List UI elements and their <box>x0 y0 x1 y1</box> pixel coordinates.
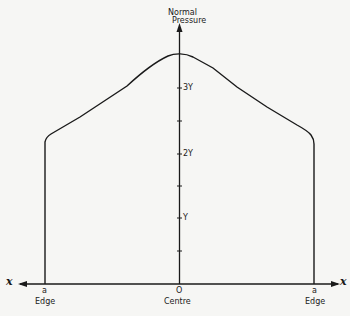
y-tick-label-2y: 2Y <box>183 149 193 158</box>
centre-label: Centre <box>164 297 191 306</box>
origin-label: O <box>176 286 182 295</box>
x-axis-right-arrow-icon <box>331 281 340 287</box>
pressure-diagram <box>0 0 350 316</box>
y-tick-label-3y: 3Y <box>183 83 193 92</box>
y-axis-title-line2: Pressure <box>172 17 206 25</box>
right-edge-letter: a <box>312 286 317 295</box>
y-axis-title: Normal Pressure <box>168 9 206 25</box>
left-edge-label: Edge <box>35 297 55 306</box>
right-edge-label: Edge <box>305 297 325 306</box>
y-tick-label-y: Y <box>183 213 188 222</box>
left-edge-letter: a <box>42 286 47 295</box>
x-axis-symbol-right: x <box>340 275 347 288</box>
x-axis-symbol-left: x <box>6 275 13 288</box>
x-axis-left-arrow-icon <box>18 281 27 287</box>
